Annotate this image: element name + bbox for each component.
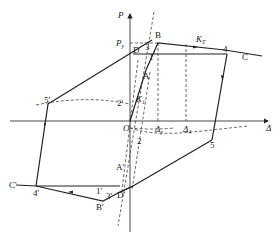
point-C-label: C — [242, 52, 248, 62]
point-3-label: 3 — [145, 42, 150, 52]
point-5-label: 5 — [210, 140, 215, 150]
origin-label: O — [123, 123, 130, 133]
point-1p-label: 1' — [96, 186, 103, 196]
point-A-label: A — [143, 71, 150, 81]
y-axis-label: P — [117, 10, 124, 20]
point-1-label: 1 — [149, 52, 154, 62]
d4-label: Δ4 — [182, 124, 191, 135]
point-Dp-label: D' — [117, 190, 125, 200]
point-2-label: 2 — [137, 136, 142, 146]
k1-label: K1 — [135, 94, 145, 105]
point-D-label: D — [133, 45, 140, 55]
py-label: Py — [115, 38, 125, 49]
hysteresis-diagram: P Δ O Py KT K1 Δy Δ4 B D 3 1 A 4 C 2 5 5… — [0, 0, 280, 240]
point-2p-label: 2' — [117, 98, 124, 108]
point-B-label: B — [155, 30, 161, 40]
dy-label: Δy — [154, 124, 163, 135]
point-Bp-label: B' — [96, 202, 104, 212]
kt-label: KT — [195, 34, 206, 45]
hysteresis-loop — [16, 40, 262, 201]
x-axis-label: Δ — [265, 123, 271, 133]
point-Cp-label: C' — [9, 180, 17, 190]
direction-arrows — [44, 46, 224, 194]
point-4-label: 4 — [223, 44, 228, 54]
point-5p-label: 5' — [44, 95, 51, 105]
point-4p-label: 4' — [33, 188, 40, 198]
point-Ap-label: A' — [116, 162, 124, 172]
point-3p-label: 3' — [106, 191, 113, 201]
